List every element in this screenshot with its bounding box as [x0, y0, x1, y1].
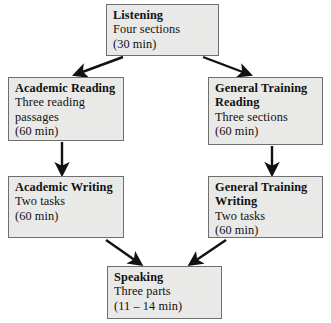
- node-general-training-writing-line1: Two tasks: [215, 209, 322, 223]
- edge-listening-to-academic-reading: [77, 57, 123, 74]
- node-general-training-reading-line2: (60 min): [215, 124, 322, 138]
- node-academic-reading-line1: Three reading: [15, 95, 123, 109]
- node-listening[interactable]: Listening Four sections (30 min): [106, 4, 219, 56]
- ielts-test-structure-diagram: Listening Four sections (30 min) Academi…: [0, 0, 331, 323]
- node-general-training-reading[interactable]: General Training Reading Three sections …: [208, 77, 323, 145]
- node-academic-reading-line2: passages: [15, 110, 123, 124]
- node-general-training-writing-line2: (60 min): [215, 223, 322, 237]
- edge-listening-to-general-training-reading: [203, 57, 248, 74]
- node-academic-reading-line3: (60 min): [15, 124, 123, 138]
- node-general-training-reading-title2: Reading: [215, 95, 322, 109]
- edge-academic-writing-to-speaking: [106, 240, 139, 263]
- node-general-training-writing-title: General Training: [215, 180, 322, 194]
- node-speaking[interactable]: Speaking Three parts (11 – 14 min): [107, 266, 222, 319]
- node-academic-reading-title: Academic Reading: [15, 81, 123, 95]
- node-speaking-line1: Three parts: [114, 284, 221, 298]
- node-speaking-line2: (11 – 14 min): [114, 299, 221, 313]
- node-academic-writing-line1: Two tasks: [15, 194, 123, 208]
- node-general-training-reading-title: General Training: [215, 81, 322, 95]
- node-listening-title: Listening: [113, 8, 218, 22]
- node-academic-writing[interactable]: Academic Writing Two tasks (60 min): [8, 176, 124, 238]
- edge-general-training-writing-to-speaking: [192, 240, 226, 263]
- node-general-training-reading-line1: Three sections: [215, 110, 322, 124]
- node-listening-line1: Four sections: [113, 22, 218, 36]
- node-academic-writing-title: Academic Writing: [15, 180, 123, 194]
- node-general-training-writing-title2: Writing: [215, 194, 322, 208]
- node-academic-writing-line2: (60 min): [15, 209, 123, 223]
- node-speaking-title: Speaking: [114, 270, 221, 284]
- node-academic-reading[interactable]: Academic Reading Three reading passages …: [8, 77, 124, 141]
- node-listening-line2: (30 min): [113, 37, 218, 51]
- node-general-training-writing[interactable]: General Training Writing Two tasks (60 m…: [208, 176, 323, 238]
